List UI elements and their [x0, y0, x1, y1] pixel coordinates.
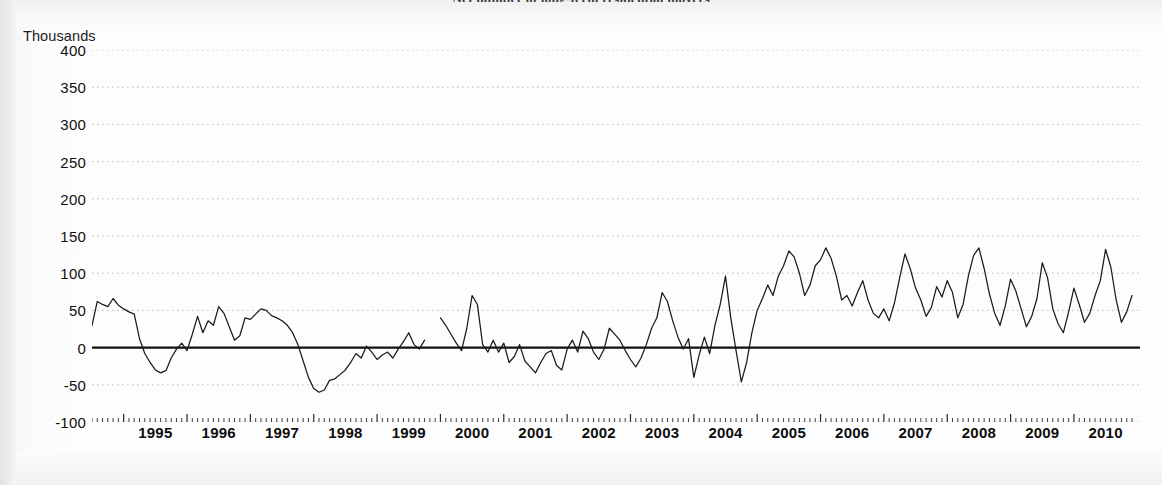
plot-area [92, 50, 1140, 422]
x-tick-2004: 2004 [708, 424, 742, 441]
y-axis-tick-labels: 400350300250200150100500-50-100 [22, 50, 86, 422]
x-tick-2001: 2001 [518, 424, 552, 441]
y-tick-300: 300 [26, 116, 86, 133]
y-tick-250: 250 [26, 153, 86, 170]
y-tick-400: 400 [26, 42, 86, 59]
chart-title-text: Net number of long-term residential move… [452, 0, 710, 2]
data-line-net-movers [92, 248, 1132, 392]
chart-title-clipped: Net number of long-term residential move… [0, 0, 1162, 2]
page-left-margin [0, 0, 16, 485]
x-tick-2000: 2000 [455, 424, 489, 441]
y-tick-neg100: -100 [26, 414, 86, 431]
y-tick-0: 0 [26, 339, 86, 356]
x-tick-2002: 2002 [582, 424, 616, 441]
y-tick-neg50: -50 [26, 376, 86, 393]
x-tick-1995: 1995 [138, 424, 172, 441]
time-series-svg [92, 50, 1140, 422]
x-tick-1996: 1996 [202, 424, 236, 441]
x-tick-2007: 2007 [898, 424, 932, 441]
x-tick-2003: 2003 [645, 424, 679, 441]
x-minor-ticks [92, 418, 1132, 422]
x-tick-1999: 1999 [392, 424, 426, 441]
y-tick-200: 200 [26, 190, 86, 207]
x-tick-2010: 2010 [1089, 424, 1123, 441]
x-tick-1998: 1998 [328, 424, 362, 441]
x-axis-tick-labels: 1995199619971998199920002001200220032004… [92, 424, 1140, 454]
gridlines [92, 50, 1140, 422]
x-tick-2006: 2006 [835, 424, 869, 441]
page-top-margin [0, 0, 1162, 26]
page-bottom-margin [0, 452, 1162, 485]
x-tick-2008: 2008 [962, 424, 996, 441]
y-tick-150: 150 [26, 228, 86, 245]
y-tick-50: 50 [26, 302, 86, 319]
y-tick-100: 100 [26, 265, 86, 282]
y-tick-350: 350 [26, 79, 86, 96]
x-tick-2005: 2005 [772, 424, 806, 441]
x-tick-1997: 1997 [265, 424, 299, 441]
x-tick-2009: 2009 [1025, 424, 1059, 441]
